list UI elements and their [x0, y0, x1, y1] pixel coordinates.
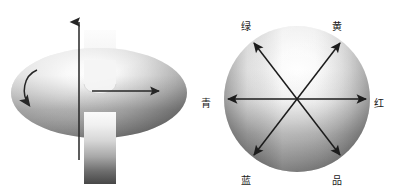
label-yellow: 黄	[332, 20, 342, 32]
rotating-disc-svg	[0, 0, 198, 192]
panel-color-wheel: 绿 黄 青 红 蓝 品	[198, 0, 396, 192]
figure-root: 绿 黄 青 红 蓝 品	[0, 0, 396, 192]
label-magenta: 品	[332, 175, 342, 186]
ribbon-lower-segment	[84, 112, 116, 184]
disc-slot	[84, 60, 116, 94]
panel-rotating-disc	[0, 0, 198, 192]
label-red: 红	[374, 97, 384, 109]
label-blue: 蓝	[241, 175, 251, 186]
label-green: 绿	[241, 20, 251, 32]
color-wheel-svg: 绿 黄 青 红 蓝 品	[198, 0, 396, 192]
label-cyan: 青	[201, 97, 211, 109]
